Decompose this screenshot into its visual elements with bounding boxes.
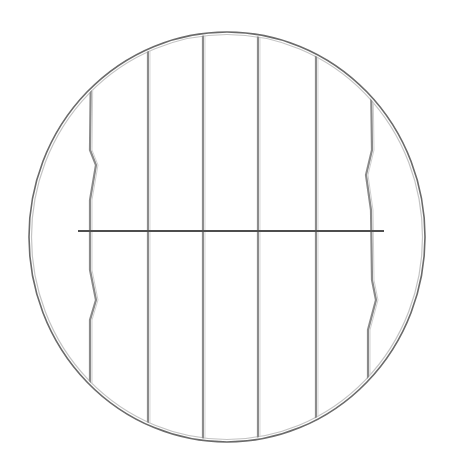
rack-photo: Round wire cooling rack <box>0 0 451 462</box>
outer-ring <box>29 32 425 442</box>
vertical-wires <box>90 20 378 450</box>
wire-rack-illustration <box>0 0 451 462</box>
